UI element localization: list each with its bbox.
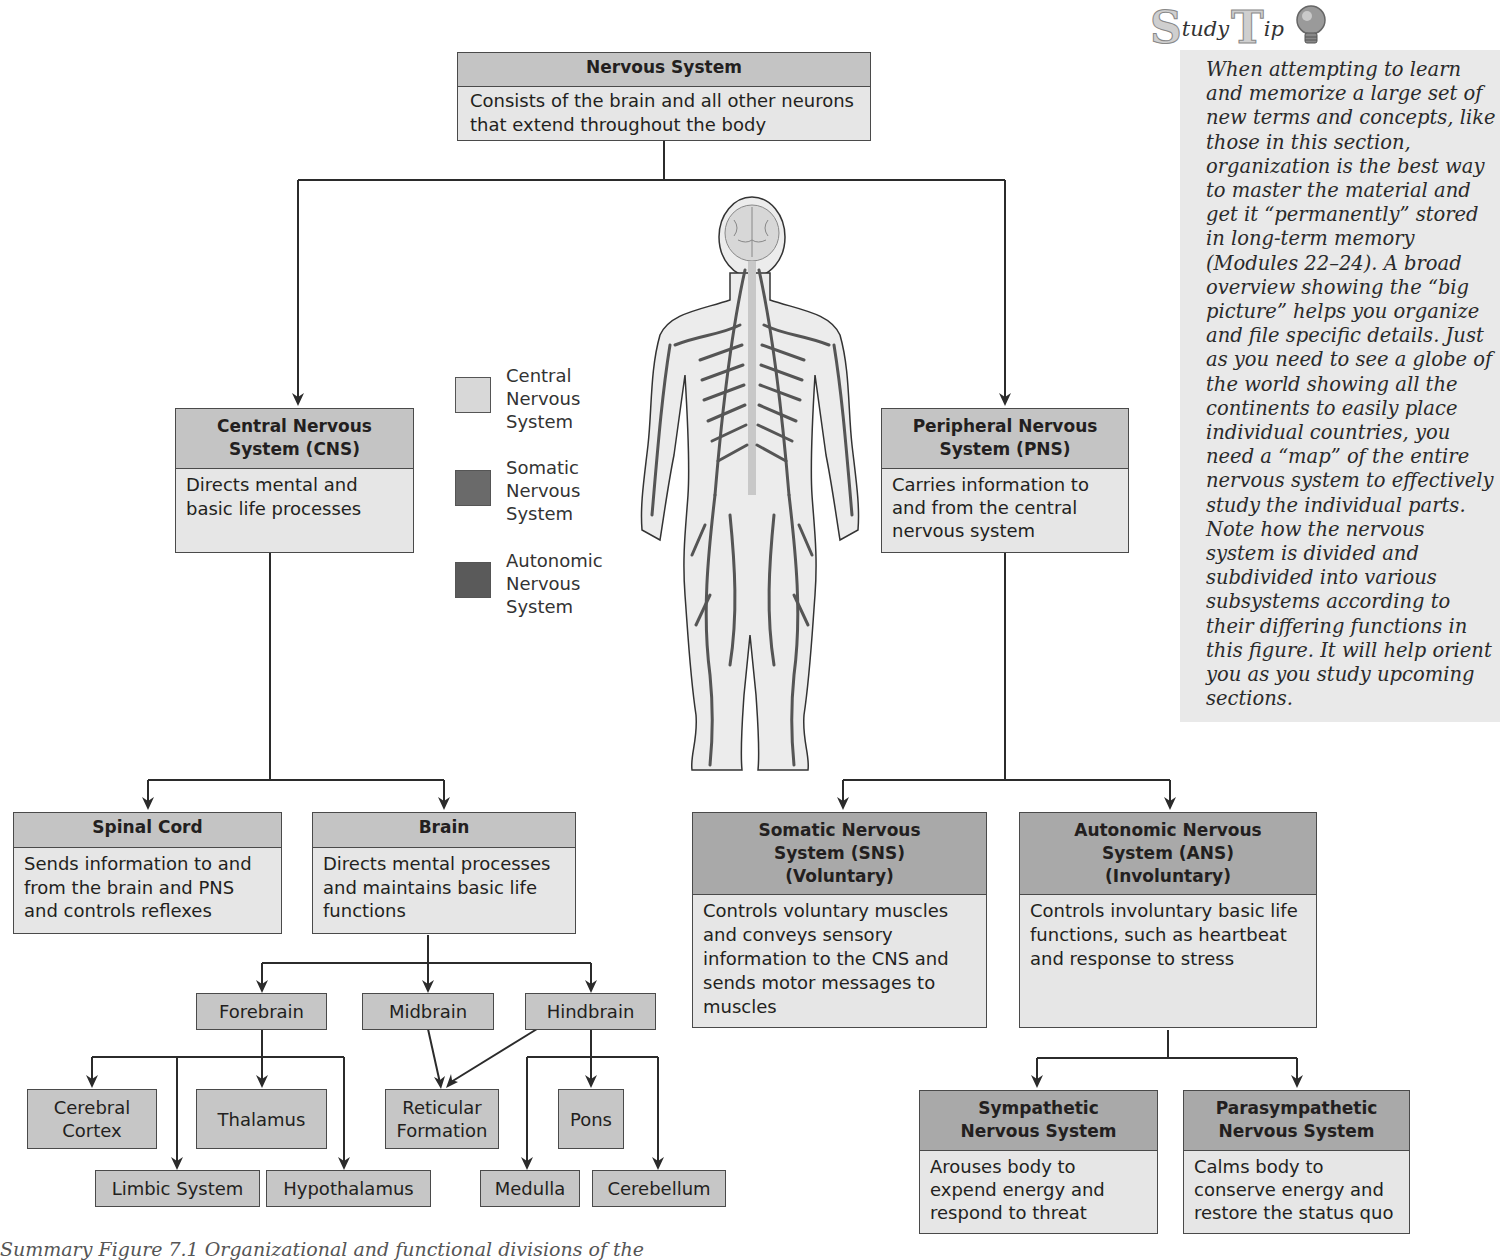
reticular-formation-box: Reticular Formation bbox=[385, 1089, 499, 1149]
figure-caption: Summary Figure 7.1 Organizational and fu… bbox=[0, 1238, 644, 1260]
nervous-system-description: Consists of the brain and all other neur… bbox=[458, 87, 870, 139]
brain-description: Directs mental processes and maintains b… bbox=[313, 848, 575, 927]
brain-title: Brain bbox=[313, 813, 575, 848]
ans-description: Controls involuntary basic life function… bbox=[1020, 895, 1316, 975]
spinal-cord-title: Spinal Cord bbox=[14, 813, 281, 848]
forebrain-box: Forebrain bbox=[196, 993, 327, 1030]
cns-title: Central Nervous System (CNS) bbox=[176, 409, 413, 469]
sympathetic-description: Arouses body to expend energy and respon… bbox=[920, 1151, 1157, 1228]
sns-description: Controls voluntary muscles and conveys s… bbox=[693, 895, 986, 1023]
cns-description: Directs mental and basic life processes bbox=[176, 469, 413, 525]
pns-title: Peripheral Nervous System (PNS) bbox=[882, 409, 1128, 469]
study-tip-big-t: T bbox=[1231, 6, 1264, 50]
study-tip-text: When attempting to learn and memorize a … bbox=[1206, 58, 1498, 711]
study-tip-heading: S tudy T ip bbox=[1150, 2, 1328, 50]
study-tip-big-s: S bbox=[1150, 6, 1182, 50]
sympathetic-title: Sympathetic Nervous System bbox=[920, 1091, 1157, 1151]
legend-swatch-autonomic bbox=[455, 562, 491, 598]
midbrain-box: Midbrain bbox=[362, 993, 494, 1030]
legend-label-autonomic: Autonomic Nervous System bbox=[506, 549, 603, 618]
sns-box: Somatic Nervous System (SNS) (Voluntary)… bbox=[692, 812, 987, 1028]
ans-title: Autonomic Nervous System (ANS) (Involunt… bbox=[1020, 813, 1316, 895]
pns-box: Peripheral Nervous System (PNS) Carries … bbox=[881, 408, 1129, 553]
pns-description: Carries information to and from the cent… bbox=[882, 469, 1128, 546]
sns-title: Somatic Nervous System (SNS) (Voluntary) bbox=[693, 813, 986, 895]
thalamus-box: Thalamus bbox=[196, 1089, 327, 1149]
human-body-illustration bbox=[630, 195, 870, 780]
parasympathetic-description: Calms body to conserve energy and restor… bbox=[1184, 1151, 1409, 1228]
ans-box: Autonomic Nervous System (ANS) (Involunt… bbox=[1019, 812, 1317, 1028]
legend-swatch-somatic bbox=[455, 470, 491, 506]
lightbulb-icon bbox=[1294, 4, 1328, 48]
hindbrain-box: Hindbrain bbox=[525, 993, 656, 1030]
brain-box: Brain Directs mental processes and maint… bbox=[312, 812, 576, 934]
medulla-box: Medulla bbox=[480, 1170, 580, 1207]
spinal-cord-description: Sends information to and from the brain … bbox=[14, 848, 281, 927]
legend-label-cns: Central Nervous System bbox=[506, 364, 580, 433]
pons-box: Pons bbox=[558, 1089, 624, 1149]
cerebral-cortex-box: Cerebral Cortex bbox=[27, 1089, 157, 1149]
legend-label-somatic: Somatic Nervous System bbox=[506, 456, 580, 525]
limbic-system-box: Limbic System bbox=[95, 1170, 260, 1207]
study-tip-ip: ip bbox=[1264, 17, 1284, 41]
parasympathetic-box: Parasympathetic Nervous System Calms bod… bbox=[1183, 1090, 1410, 1234]
study-tip-tudy: tudy bbox=[1182, 17, 1229, 41]
parasympathetic-title: Parasympathetic Nervous System bbox=[1184, 1091, 1409, 1151]
nervous-system-box: Nervous System Consists of the brain and… bbox=[457, 52, 871, 141]
cerebellum-box: Cerebellum bbox=[592, 1170, 726, 1207]
nervous-system-title: Nervous System bbox=[458, 53, 870, 87]
legend-swatch-cns bbox=[455, 377, 491, 413]
cns-box: Central Nervous System (CNS) Directs men… bbox=[175, 408, 414, 553]
sympathetic-box: Sympathetic Nervous System Arouses body … bbox=[919, 1090, 1158, 1234]
spinal-cord-box: Spinal Cord Sends information to and fro… bbox=[13, 812, 282, 934]
hypothalamus-box: Hypothalamus bbox=[266, 1170, 431, 1207]
